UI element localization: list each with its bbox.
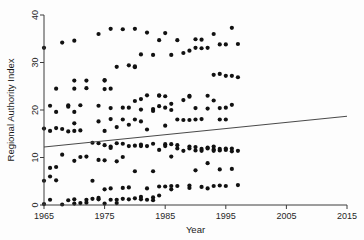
data-point [175, 146, 179, 150]
data-point [133, 144, 137, 148]
data-point [193, 168, 197, 172]
scatter-plot: 010203040196519751985199520052015 Region… [0, 0, 364, 240]
data-point [181, 51, 185, 55]
data-point [230, 167, 234, 171]
data-point [175, 117, 179, 121]
data-point [48, 129, 52, 133]
data-point [133, 27, 137, 31]
x-tick-label: 1965 [34, 211, 54, 221]
data-point [127, 185, 131, 189]
data-point [169, 108, 173, 112]
data-point [127, 106, 131, 110]
data-point [127, 123, 131, 127]
data-point [103, 187, 107, 191]
data-point [157, 193, 161, 197]
data-point [157, 94, 161, 98]
data-point [181, 149, 185, 153]
data-point [206, 94, 210, 98]
data-point [96, 119, 100, 123]
data-point [199, 38, 203, 42]
chart-figure: 010203040196519751985199520052015 Region… [0, 0, 364, 240]
data-point [218, 42, 222, 46]
y-tick-label: 40 [30, 10, 40, 20]
data-point [90, 179, 94, 183]
data-point [66, 198, 70, 202]
data-point [72, 87, 76, 91]
x-tick-label: 1985 [155, 211, 175, 221]
data-point [103, 87, 107, 91]
data-point [121, 155, 125, 159]
data-point [206, 106, 210, 110]
data-point [109, 27, 113, 31]
data-point [187, 146, 191, 150]
data-point [121, 186, 125, 190]
data-point [60, 40, 64, 44]
data-point [163, 184, 167, 188]
data-point [193, 145, 197, 149]
x-tick-label: 2005 [276, 211, 296, 221]
data-point [163, 31, 167, 35]
data-point [121, 197, 125, 201]
data-point [48, 104, 52, 108]
data-point [193, 106, 197, 110]
data-point [133, 117, 137, 121]
data-point [199, 185, 203, 189]
data-point [54, 110, 58, 114]
data-point [84, 154, 88, 158]
y-axis-title: Regional Authority Index [5, 58, 16, 161]
data-point [224, 117, 228, 121]
data-point [139, 144, 143, 148]
data-point [193, 117, 197, 121]
x-axis-title: Year [186, 224, 205, 235]
data-point [109, 146, 113, 150]
data-point [187, 49, 191, 53]
data-point [224, 184, 228, 188]
data-point [157, 104, 161, 108]
data-point [212, 98, 216, 102]
data-point [193, 37, 197, 41]
x-tick-label: 1995 [216, 211, 236, 221]
data-point [48, 166, 52, 170]
data-point [218, 117, 222, 121]
data-point [230, 103, 234, 107]
data-point [133, 99, 137, 103]
data-point [187, 186, 191, 190]
data-point [151, 109, 155, 113]
data-point [72, 197, 76, 201]
data-point [90, 197, 94, 201]
data-point [139, 97, 143, 101]
data-point [169, 142, 173, 146]
data-point [151, 169, 155, 173]
data-point [66, 105, 70, 109]
data-point [78, 103, 82, 107]
data-point [236, 183, 240, 187]
data-point [145, 198, 149, 202]
data-point [72, 159, 76, 163]
data-point [169, 53, 173, 57]
data-point [103, 129, 107, 133]
data-point [121, 106, 125, 110]
data-point [230, 26, 234, 30]
data-point [84, 78, 88, 82]
data-point [139, 107, 143, 111]
data-point [236, 149, 240, 153]
data-point [109, 198, 113, 202]
data-points-layer [42, 26, 240, 207]
x-tick-label: 1975 [95, 211, 115, 221]
data-point [54, 165, 58, 169]
data-point [157, 38, 161, 42]
data-point [212, 32, 216, 36]
data-point [60, 127, 64, 131]
data-point [109, 117, 113, 121]
data-point [151, 53, 155, 57]
data-point [218, 148, 222, 152]
data-point [212, 149, 216, 153]
data-point [230, 149, 234, 153]
data-point [212, 73, 216, 77]
data-point [133, 169, 137, 173]
data-point [96, 32, 100, 36]
data-point [218, 183, 222, 187]
data-point [48, 198, 52, 202]
y-tick-label: 30 [30, 57, 40, 67]
data-point [163, 106, 167, 110]
